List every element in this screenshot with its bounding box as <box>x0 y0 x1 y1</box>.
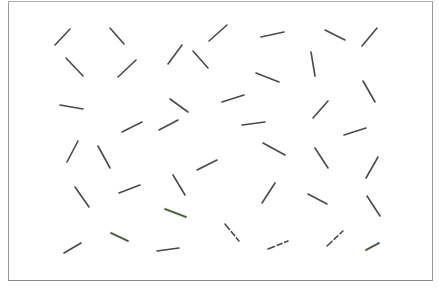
line-segment <box>119 185 140 193</box>
line-segment <box>66 58 83 76</box>
line-segment <box>325 30 345 40</box>
line-segment <box>197 160 217 170</box>
line-segment <box>367 196 380 216</box>
line-segment <box>313 101 328 118</box>
line-segment <box>60 105 83 109</box>
line-segment <box>242 122 265 125</box>
line-segment <box>111 233 128 241</box>
line-segment <box>173 175 185 195</box>
stimulus-display <box>0 0 439 297</box>
line-segment <box>157 248 179 251</box>
line-segment <box>225 224 239 241</box>
line-segment <box>168 45 182 64</box>
line-segment <box>222 95 244 102</box>
line-segment <box>75 187 89 207</box>
line-segment <box>209 25 227 41</box>
line-segment <box>362 28 377 46</box>
line-segment <box>268 241 288 249</box>
line-segment <box>315 148 328 168</box>
line-segment <box>67 141 78 162</box>
line-segment <box>122 122 142 132</box>
line-segment <box>118 60 136 77</box>
line-segment <box>165 209 186 217</box>
line-segment <box>366 243 379 250</box>
line-segment <box>55 29 70 45</box>
line-segments-layer <box>0 0 439 297</box>
line-segment <box>159 120 178 130</box>
line-segment <box>110 28 124 44</box>
line-segment <box>256 73 279 82</box>
line-segment <box>170 99 188 112</box>
line-segment <box>263 143 285 155</box>
line-segment <box>308 194 327 204</box>
line-segment <box>344 128 366 135</box>
line-segment <box>64 243 81 253</box>
line-segment <box>327 231 343 246</box>
line-segment <box>366 157 378 178</box>
line-segment <box>193 51 208 68</box>
line-segment <box>363 81 375 102</box>
line-segment <box>311 52 315 76</box>
line-segment <box>98 146 110 168</box>
line-segment <box>261 32 284 37</box>
line-segment <box>262 183 275 203</box>
